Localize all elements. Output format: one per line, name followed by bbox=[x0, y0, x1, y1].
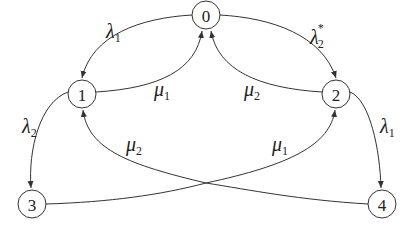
label-mu2-4-1: μ2 bbox=[125, 133, 142, 158]
node-1: 1 bbox=[68, 80, 96, 108]
svg-text:2: 2 bbox=[332, 86, 341, 105]
edge-1-to-3 bbox=[31, 92, 68, 188]
edge-2-to-0 bbox=[211, 31, 322, 92]
label-mu2-2-0: μ2 bbox=[243, 78, 260, 103]
label-lambda2-1-3: λ2 bbox=[21, 115, 37, 140]
node-2: 2 bbox=[322, 80, 350, 108]
svg-text:4: 4 bbox=[378, 196, 387, 215]
state-diagram: λ1 μ1 λ*2 μ2 λ2 μ2 λ1 μ1 0 1 2 3 4 bbox=[0, 0, 412, 232]
edge-3-to-2 bbox=[46, 110, 335, 204]
label-lambda1-2-4: λ1 bbox=[379, 115, 395, 140]
edge-2-to-4 bbox=[350, 92, 381, 188]
svg-text:0: 0 bbox=[202, 7, 211, 26]
label-lambda2star-0-2: λ*2 bbox=[309, 21, 324, 51]
label-lambda1-0-1: λ1 bbox=[105, 20, 121, 45]
label-mu1-3-2: μ1 bbox=[271, 133, 288, 158]
node-4: 4 bbox=[368, 190, 396, 218]
edge-4-to-1 bbox=[83, 110, 368, 204]
svg-text:3: 3 bbox=[28, 196, 37, 215]
node-3: 3 bbox=[18, 190, 46, 218]
svg-text:1: 1 bbox=[78, 86, 87, 105]
node-0: 0 bbox=[192, 1, 220, 29]
edge-0-to-1 bbox=[82, 15, 192, 78]
label-mu1-1-0: μ1 bbox=[153, 78, 170, 103]
